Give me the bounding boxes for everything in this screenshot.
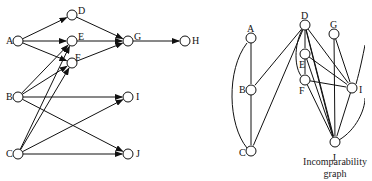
- left-node-E: [67, 36, 77, 46]
- right-edge-E-J: [307, 59, 333, 137]
- right-node-label-B: B: [239, 85, 246, 95]
- left-node-C: [13, 149, 23, 159]
- right-edge-D-B: [255, 29, 302, 86]
- edge-A-C-curve: [232, 43, 247, 148]
- edge-I-H-curve: [356, 45, 365, 84]
- caption-line-2: graph: [290, 168, 372, 180]
- left-node-label-J: J: [136, 149, 140, 159]
- right-edge-E-I: [309, 57, 347, 85]
- right-node-B: [246, 85, 256, 95]
- left-node-label-B: B: [6, 92, 13, 102]
- left-graph-edges: [20, 17, 179, 154]
- left-node-label-H: H: [192, 36, 199, 46]
- left-node-label-F: F: [75, 53, 81, 63]
- left-node-label-I: I: [136, 92, 139, 102]
- right-edge-F-J: [307, 85, 332, 137]
- right-node-label-A: A: [247, 24, 254, 34]
- right-node-label-G: G: [330, 20, 337, 30]
- right-node-E: [300, 49, 310, 59]
- left-edge-B-F: [22, 66, 67, 94]
- left-node-J: [123, 149, 133, 159]
- left-edge-F-G: [77, 43, 123, 61]
- left-graph-nodes: [13, 10, 190, 159]
- right-node-J: [330, 137, 340, 147]
- right-node-C: [246, 146, 256, 156]
- right-graph-caption: Incomparability graph: [290, 156, 372, 180]
- left-node-I: [123, 92, 133, 102]
- left-node-label-G: G: [134, 32, 141, 42]
- right-node-label-C: C: [239, 148, 246, 158]
- left-node-label-A: A: [6, 36, 13, 46]
- left-node-label-E: E: [78, 32, 84, 42]
- right-edge-I-J: [337, 93, 351, 137]
- left-edge-A-F: [23, 43, 67, 61]
- right-node-label-I: I: [359, 85, 362, 95]
- left-node-label-C: C: [6, 149, 13, 159]
- caption-line-1: Incomparability: [290, 156, 372, 168]
- left-edge-B-E: [21, 45, 67, 93]
- left-edge-A-D: [23, 18, 67, 39]
- right-node-label-D: D: [301, 11, 308, 21]
- left-node-D: [67, 10, 77, 20]
- left-node-G: [123, 36, 133, 46]
- right-edge-G-J: [334, 39, 335, 136]
- left-node-B: [13, 92, 23, 102]
- right-edge-D-C: [253, 30, 303, 146]
- right-node-D: [300, 20, 310, 30]
- right-node-G: [329, 29, 339, 39]
- right-node-I: [347, 83, 357, 93]
- right-node-A: [246, 33, 256, 43]
- right-node-F: [300, 75, 310, 85]
- edge-J-H-curve: [339, 98, 365, 140]
- left-node-H: [180, 36, 190, 46]
- left-node-A: [13, 36, 23, 46]
- right-node-label-E: E: [299, 60, 305, 70]
- right-edge-D-I: [308, 29, 348, 83]
- left-edge-C-E: [20, 46, 69, 149]
- right-node-label-F: F: [299, 86, 305, 96]
- left-node-label-D: D: [78, 6, 85, 16]
